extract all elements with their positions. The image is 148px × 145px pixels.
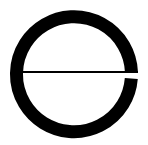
horizontal-bar — [22, 71, 138, 73]
e-ring-icon — [0, 0, 148, 145]
ring-stroke — [16, 17, 131, 132]
e-ring-logo — [0, 0, 148, 145]
